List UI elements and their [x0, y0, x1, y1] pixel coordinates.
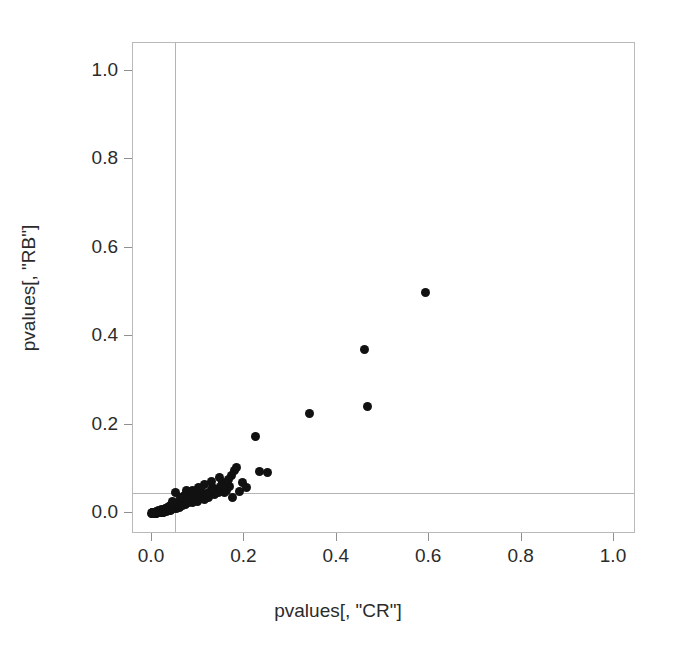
y-axis-tick-label: 0.0: [92, 501, 118, 523]
x-axis-tick: [521, 533, 522, 541]
y-axis-label-text: pvalues[, "RB"]: [18, 224, 40, 351]
x-axis-tick-label: 0.4: [323, 545, 349, 567]
x-axis-tick-label: 1.0: [600, 545, 626, 567]
data-point: [421, 288, 430, 297]
data-point: [228, 493, 237, 502]
y-axis-label: pvalues[, "RB"]: [16, 0, 42, 575]
y-axis-tick: [124, 247, 132, 248]
data-point: [251, 432, 260, 441]
y-axis-tick: [124, 335, 132, 336]
x-axis-tick: [613, 533, 614, 541]
data-point: [235, 487, 244, 496]
x-axis-tick: [243, 533, 244, 541]
data-point: [168, 497, 177, 506]
x-axis-tick-label: 0.8: [507, 545, 533, 567]
data-point: [360, 345, 369, 354]
plot-area: [132, 42, 635, 533]
y-axis-tick: [124, 424, 132, 425]
x-axis-tick-label: 0.0: [138, 545, 164, 567]
y-axis-tick-label: 1.0: [92, 59, 118, 81]
data-point: [147, 509, 156, 518]
x-axis-tick-label: 0.2: [230, 545, 256, 567]
x-axis-tick-label: 0.6: [415, 545, 441, 567]
data-point: [263, 468, 272, 477]
x-axis-label: pvalues[, "CR"]: [0, 600, 676, 622]
y-axis-tick-label: 0.2: [92, 413, 118, 435]
scatter-plot-figure: pvalues[, "CR"] pvalues[, "RB"] 0.00.20.…: [0, 0, 676, 665]
x-axis-tick: [428, 533, 429, 541]
y-axis-tick-label: 0.8: [92, 147, 118, 169]
y-axis-tick-label: 0.4: [92, 324, 118, 346]
reference-line-vertical: [175, 43, 176, 532]
data-point: [188, 486, 197, 495]
y-axis-tick: [124, 158, 132, 159]
y-axis-tick-label: 0.6: [92, 236, 118, 258]
x-axis-tick: [151, 533, 152, 541]
y-axis-tick: [124, 70, 132, 71]
y-axis-tick: [124, 512, 132, 513]
data-point: [363, 402, 372, 411]
x-axis-tick: [336, 533, 337, 541]
data-point: [305, 409, 314, 418]
